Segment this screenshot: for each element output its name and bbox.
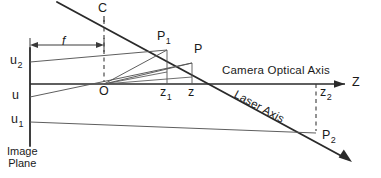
label-z2: z2 <box>320 86 332 102</box>
label-point-o: O <box>99 85 109 98</box>
label-z: z <box>188 86 195 102</box>
ray-u1-to-p2 <box>30 122 316 133</box>
label-u2: u2 <box>10 54 22 70</box>
label-image-plane: Image Plane <box>7 146 38 169</box>
image-plane-line1: Image <box>7 146 38 158</box>
image-plane-line2: Plane <box>7 158 38 170</box>
label-camera-optical-axis: Camera Optical Axis <box>222 64 330 76</box>
focal-dimension-right-arrow <box>96 42 104 48</box>
label-u: u <box>12 89 19 105</box>
laser-axis-arrowhead <box>339 149 352 162</box>
connector-line-p1 <box>104 72 167 84</box>
label-point-p2: P2 <box>322 129 336 145</box>
label-z-axis: Z <box>352 76 360 89</box>
label-focal-length: f <box>62 35 65 48</box>
label-point-p: P <box>194 43 202 56</box>
label-z1: z1 <box>160 86 172 102</box>
label-u1: u1 <box>11 113 23 129</box>
label-point-c: C <box>98 2 107 15</box>
optical-geometry-diagram: C O P1 P P2 u2 u u1 f z1 z z2 Ca <box>0 0 381 178</box>
ray-u2-to-p1 <box>30 50 167 62</box>
laser-axis-line <box>57 2 347 159</box>
focal-dimension-left-arrow <box>30 42 38 48</box>
z-axis-arrowhead <box>334 80 345 88</box>
label-point-p1: P1 <box>157 30 171 46</box>
